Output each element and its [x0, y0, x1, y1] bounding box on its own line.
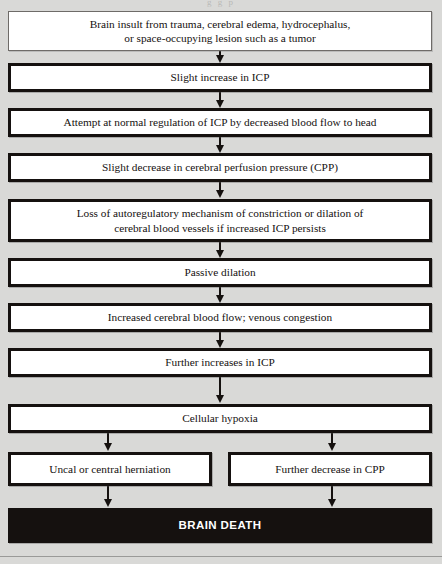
flowchart-node-n7: Increased cerebral blood flow; venous co… [8, 303, 432, 332]
arrow-n11-to-n12 [331, 486, 333, 500]
flowchart-node-n4: Slight decrease in cerebral perfusion pr… [8, 153, 432, 182]
node-label: Attempt at normal regulation of ICP by d… [64, 115, 377, 130]
node-label: Cellular hypoxia [182, 411, 258, 426]
flowchart-node-n5: Loss of autoregulatory mechanism of cons… [8, 199, 432, 242]
arrow-n2-to-n3 [219, 92, 221, 101]
node-label: Passive dilation [184, 265, 255, 280]
node-label: Further decrease in CPP [275, 462, 385, 477]
flowchart-node-n2: Slight increase in ICP [8, 63, 432, 92]
flowchart-node-n11: Further decrease in CPP [228, 452, 432, 486]
node-label: Uncal or central herniation [49, 462, 170, 477]
arrow-n9-to-n10 [107, 433, 109, 444]
flowchart-node-n12: BRAIN DEATH [8, 508, 432, 543]
node-label: Slight decrease in cerebral perfusion pr… [102, 160, 338, 175]
flowchart-node-n6: Passive dilation [8, 258, 432, 287]
node-label: Loss of autoregulatory mechanism of cons… [77, 206, 364, 235]
flowchart-canvas: g g p Brain insult from trauma, cerebral… [0, 0, 442, 564]
node-label: Slight increase in ICP [171, 70, 270, 85]
page-rule [0, 556, 442, 557]
node-label: Further increases in ICP [165, 355, 275, 370]
arrow-n3-to-n4 [219, 137, 221, 146]
arrow-n5-to-n6 [219, 242, 221, 251]
flowchart-node-n1: Brain insult from trauma, cerebral edema… [8, 11, 432, 51]
arrow-n7-to-n8 [219, 332, 221, 341]
arrow-n1-to-n2 [219, 51, 221, 56]
flowchart-node-n3: Attempt at normal regulation of ICP by d… [8, 108, 432, 137]
flowchart-node-n10: Uncal or central herniation [8, 452, 212, 486]
flowchart-node-n8: Further increases in ICP [8, 348, 432, 377]
flowchart-node-n9: Cellular hypoxia [8, 404, 432, 433]
arrow-n8-to-n9 [219, 377, 221, 396]
node-label: Brain insult from trauma, cerebral edema… [90, 17, 351, 46]
arrow-n4-to-n5 [219, 182, 221, 191]
arrow-n6-to-n7 [219, 287, 221, 296]
node-label: Increased cerebral blood flow; venous co… [108, 310, 332, 325]
arrow-n10-to-n12 [107, 486, 109, 500]
node-label: BRAIN DEATH [179, 518, 262, 533]
caption-fragment: g g p [0, 0, 442, 7]
arrow-n9-to-n11 [331, 433, 333, 444]
